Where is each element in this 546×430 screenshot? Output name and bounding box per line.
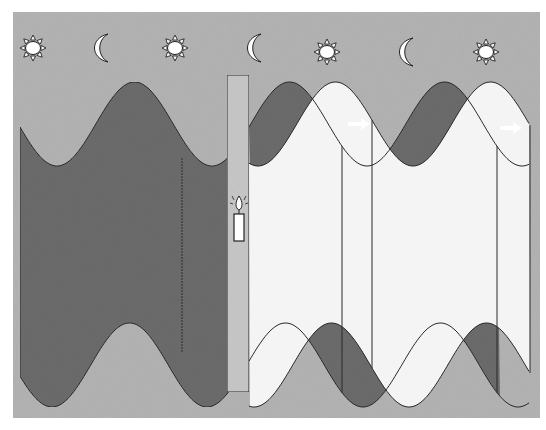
phase-shift-diagram [0, 0, 546, 430]
sun-icon [314, 39, 340, 65]
sun-icon [162, 35, 188, 61]
sun-icon [473, 39, 499, 65]
sun-icon [20, 35, 46, 61]
